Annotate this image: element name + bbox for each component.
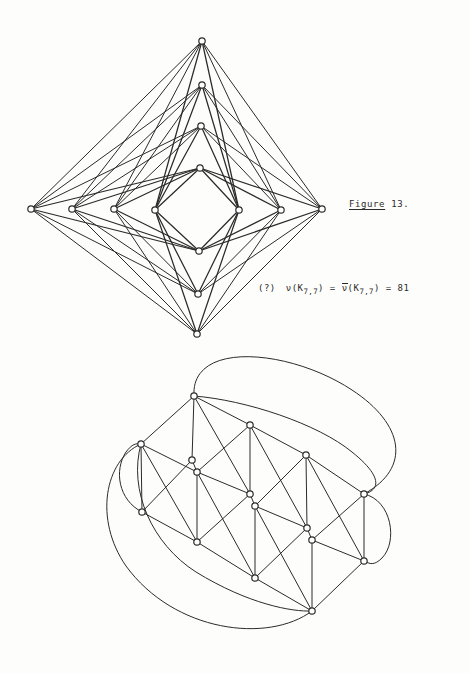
torus-wrap-arc-top [194, 357, 396, 494]
torus-grid-vertex [252, 503, 258, 509]
torus-grid-edge [142, 460, 192, 512]
torus-grid-edge [306, 455, 307, 528]
torus-grid-edge [197, 494, 250, 542]
torus-grid-vertex [309, 537, 315, 543]
torus-grid-vertex [304, 525, 310, 531]
torus-grid-edge [312, 540, 364, 561]
torus-grid-vertex [247, 491, 253, 497]
torus-grid-vertex [247, 422, 253, 428]
torus-grid-edge [141, 396, 194, 444]
torus-grid-edge [306, 455, 364, 494]
figure-page: Figure 13. (?)ν(K7,7) = ν(K7,7) = 81 [0, 0, 470, 673]
torus-grid-vertex [194, 469, 200, 475]
torus-grid-edge [312, 494, 364, 540]
torus-grid-vertex [309, 608, 315, 614]
torus-grid-vertex [139, 509, 145, 515]
torus-grid-edge [255, 506, 307, 528]
torus-grid-edge [312, 561, 364, 611]
torus-wrap-arc-top-inner [194, 396, 376, 494]
torus-grid-figure [0, 0, 470, 673]
torus-grid-edge [192, 396, 194, 460]
torus-grid-vertex [194, 539, 200, 545]
torus-grid-vertex [191, 393, 197, 399]
torus-grid-edge [306, 455, 364, 561]
torus-grid-vertex [303, 452, 309, 458]
torus-grid-edge [197, 542, 255, 578]
torus-grid-vertex [361, 491, 367, 497]
torus-grid-vertex [138, 441, 144, 447]
torus-grid-vertex [189, 457, 195, 463]
torus-grid-vertex [361, 558, 367, 564]
torus-wrap-arc-bottom-inner [137, 444, 312, 611]
torus-grid-vertex [252, 575, 258, 581]
torus-wrap-arc-right [364, 494, 391, 564]
torus-grid-edge [197, 472, 250, 494]
